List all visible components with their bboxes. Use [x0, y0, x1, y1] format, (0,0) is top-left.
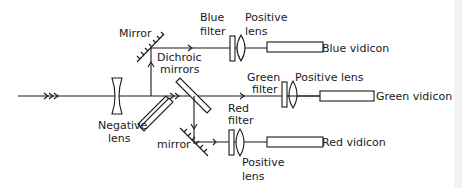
blue-positive-lens	[237, 35, 245, 61]
red-vidicon	[267, 137, 323, 147]
label-mirror-top: Mirror	[119, 27, 152, 40]
label-blue-lens-1: Positive	[245, 11, 288, 24]
red-filter	[229, 130, 234, 155]
green-positive-lens	[289, 81, 297, 108]
optical-diagram: Mirror Blue filter Positive lens Blue vi…	[0, 0, 462, 188]
green-vidicon	[320, 91, 374, 101]
green-filter	[282, 82, 287, 107]
blue-vidicon	[267, 42, 323, 52]
page-edge	[454, 0, 462, 188]
label-mirror-bottom: mirror	[157, 138, 191, 151]
label-red-lens-1: Positive	[242, 156, 285, 169]
red-positive-lens	[236, 129, 244, 156]
label-blue-lens-2: lens	[245, 25, 268, 38]
label-green-lens: Positive lens	[295, 71, 364, 84]
label-blue-filter-1: Blue	[200, 11, 225, 24]
label-blue-vidicon: Blue vidicon	[322, 42, 389, 55]
label-red-vidicon: Red vidicon	[322, 136, 386, 149]
label-dichroic-2: mirrors	[160, 63, 200, 76]
blue-filter	[230, 36, 235, 61]
label-green-filter-2: filter	[252, 83, 278, 96]
label-red-filter-2: filter	[228, 114, 254, 127]
label-blue-filter-2: filter	[200, 25, 226, 38]
label-green-vidicon: Green vidicon	[376, 90, 452, 103]
label-negative-lens-2: lens	[108, 132, 131, 145]
label-negative-lens-1: Negative	[98, 119, 148, 132]
label-red-lens-2: lens	[242, 170, 265, 183]
diagram-canvas: Mirror Blue filter Positive lens Blue vi…	[0, 0, 462, 188]
